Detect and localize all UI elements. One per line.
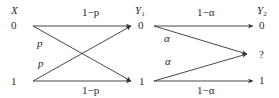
edge-label-cross-p-bottom: p xyxy=(38,58,44,69)
y1-subscript: 1 xyxy=(141,10,145,18)
edge-label-top-1-minus-alpha: 1−α xyxy=(197,7,214,18)
y2-symbol-erasure: ? xyxy=(259,49,264,60)
x-variable-label: X xyxy=(11,5,18,16)
label-text: 1−α xyxy=(197,6,214,18)
edge-label-cross-p-top: p xyxy=(37,38,43,49)
x-symbol-0: 0 xyxy=(11,20,17,31)
edge-label-top-1-minus-p: 1−p xyxy=(82,7,99,18)
edge-label-alpha-bottom: α xyxy=(165,56,171,67)
y1-symbol-0: 0 xyxy=(138,20,144,31)
label-text: 1−p xyxy=(82,6,99,18)
y1-symbol-1: 1 xyxy=(139,76,145,87)
label-text: 1−α xyxy=(197,84,214,96)
y2-symbol-0: 0 xyxy=(259,20,265,31)
edge-label-alpha-top: α xyxy=(164,33,170,44)
y2-subscript: 2 xyxy=(263,10,267,18)
edge-label-bottom-1-minus-alpha: 1−α xyxy=(197,85,214,96)
y1-variable-label: Y1 xyxy=(135,5,145,20)
edge-label-bottom-1-minus-p: 1−p xyxy=(82,85,99,96)
y2-symbol-1: 1 xyxy=(259,75,265,86)
x-symbol-1: 1 xyxy=(11,76,17,87)
y2-variable-label: Y2 xyxy=(257,5,267,20)
label-text: 1−p xyxy=(82,84,99,96)
